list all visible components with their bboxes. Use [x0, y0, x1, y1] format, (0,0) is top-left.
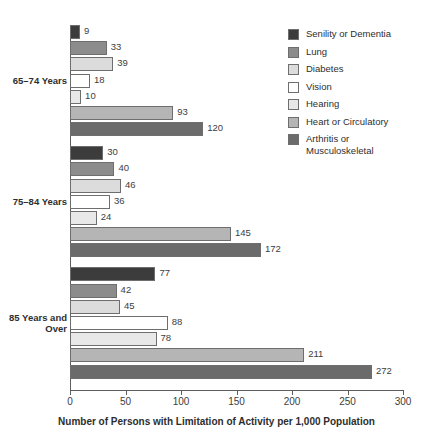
chart-legend: Senility or DementiaLungDiabetesVisionHe…	[288, 28, 433, 162]
bar-row: 42	[70, 284, 403, 298]
bar	[70, 316, 168, 330]
bar-row: 46	[70, 179, 403, 193]
legend-item-label: Lung	[306, 46, 327, 58]
bar-value-label: 77	[159, 266, 170, 280]
bar-value-label: 145	[235, 226, 251, 240]
bar-row: 45	[70, 300, 403, 314]
bar-chart: 9333918109312030404636241451727742458878…	[0, 0, 433, 448]
x-axis-tick	[70, 390, 71, 395]
bar	[70, 57, 113, 71]
bar	[70, 300, 120, 314]
bar	[70, 243, 261, 257]
bar	[70, 365, 372, 379]
bar-row: 88	[70, 316, 403, 330]
bar-row: 211	[70, 348, 403, 362]
bar	[70, 106, 173, 120]
bar-row: 36	[70, 195, 403, 209]
bar	[70, 146, 103, 160]
legend-item-label: Senility or Dementia	[306, 28, 391, 40]
legend-swatch-icon	[288, 47, 299, 58]
x-axis-tick-label: 250	[339, 396, 356, 407]
x-axis-tick-label: 0	[67, 396, 73, 407]
legend-item-label: Vision	[306, 81, 332, 93]
x-axis-tick-label: 200	[284, 396, 301, 407]
legend-swatch-icon	[288, 29, 299, 40]
x-axis-tick	[403, 390, 404, 395]
legend-item-label: Heart or Circulatory	[306, 116, 388, 128]
bar	[70, 332, 157, 346]
bar-row: 272	[70, 365, 403, 379]
bar-row: 172	[70, 243, 403, 257]
legend-swatch-icon	[288, 82, 299, 93]
bar-value-label: 30	[107, 145, 118, 159]
bar-value-label: 42	[121, 283, 132, 297]
bar-value-label: 18	[94, 73, 105, 87]
x-axis-tick-label: 100	[173, 396, 190, 407]
bar-value-label: 172	[265, 242, 281, 256]
legend-item-label: Diabetes	[306, 63, 344, 75]
bar-value-label: 45	[124, 299, 135, 313]
bar-row: 24	[70, 211, 403, 225]
bar-value-label: 36	[114, 194, 125, 208]
x-axis-title: Number of Persons with Limitation of Act…	[0, 416, 433, 427]
bar-value-label: 33	[111, 40, 122, 54]
legend-swatch-icon	[288, 134, 299, 145]
legend-item: Lung	[288, 46, 433, 58]
legend-swatch-icon	[288, 117, 299, 128]
bar-value-label: 93	[177, 105, 188, 119]
legend-item: Vision	[288, 81, 433, 93]
bar	[70, 74, 90, 88]
legend-item-label: Arthritis or Musculoskeletal	[306, 133, 374, 156]
legend-item: Senility or Dementia	[288, 28, 433, 40]
x-axis-tick	[292, 390, 293, 395]
legend-item-label: Hearing	[306, 98, 339, 110]
x-axis-tick	[237, 390, 238, 395]
legend-item: Heart or Circulatory	[288, 116, 433, 128]
legend-swatch-icon	[288, 99, 299, 110]
bar-row: 145	[70, 227, 403, 241]
group-label: 65–74 Years	[13, 75, 67, 86]
bar-value-label: 120	[207, 121, 223, 135]
bar	[70, 267, 155, 281]
bar	[70, 162, 114, 176]
bar	[70, 348, 304, 362]
bar-value-label: 40	[118, 161, 129, 175]
legend-swatch-icon	[288, 64, 299, 75]
legend-item: Diabetes	[288, 63, 433, 75]
x-axis-tick	[348, 390, 349, 395]
x-axis-tick-label: 300	[395, 396, 412, 407]
group-label: 85 Years and Over	[9, 312, 67, 334]
bar-value-label: 10	[85, 89, 96, 103]
x-axis-tick	[126, 390, 127, 395]
bar-value-label: 24	[101, 210, 112, 224]
bar	[70, 179, 121, 193]
bar-row: 40	[70, 162, 403, 176]
group-label: 75–84 Years	[13, 196, 67, 207]
bar	[70, 284, 117, 298]
bar-row: 78	[70, 332, 403, 346]
bar-value-label: 211	[308, 347, 323, 361]
bar	[70, 227, 231, 241]
bar-row: 77	[70, 267, 403, 281]
legend-item: Arthritis or Musculoskeletal	[288, 133, 433, 156]
bar-value-label: 88	[172, 315, 183, 329]
bar-value-label: 9	[84, 24, 89, 38]
bar	[70, 122, 203, 136]
bar-value-label: 272	[376, 364, 392, 378]
bar-value-label: 78	[161, 331, 172, 345]
bar	[70, 195, 110, 209]
bar	[70, 25, 80, 39]
bar	[70, 41, 107, 55]
bar-value-label: 39	[117, 56, 128, 70]
x-axis-tick	[181, 390, 182, 395]
bar	[70, 90, 81, 104]
bar	[70, 211, 97, 225]
x-axis-tick-label: 50	[120, 396, 131, 407]
x-axis-tick-label: 150	[228, 396, 245, 407]
legend-item: Hearing	[288, 98, 433, 110]
bar-value-label: 46	[125, 178, 136, 192]
